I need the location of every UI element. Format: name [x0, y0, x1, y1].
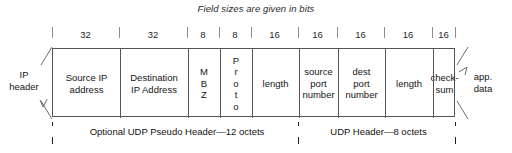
bit-size-tick	[337, 27, 338, 38]
field-cell-proto: Proto	[220, 49, 252, 118]
field-label-line: r	[234, 66, 237, 77]
bit-size-label-source-ip-address: 32	[52, 29, 119, 40]
field-label-line: port	[353, 78, 369, 89]
field-divider	[220, 49, 221, 118]
bit-size-label-mbz: 8	[187, 29, 219, 40]
field-cell-dest-port-number: destportnumber	[338, 49, 385, 118]
field-label-line: Destination	[130, 72, 178, 83]
field-label-proto: Proto	[233, 55, 239, 113]
field-label-mbz: MBZ	[200, 66, 208, 101]
bit-size-tick	[119, 27, 120, 38]
field-label-line: o	[233, 78, 238, 89]
field-label-line: address	[70, 84, 104, 95]
bit-size-label-source-port-number: 16	[298, 29, 337, 40]
field-divider	[120, 49, 121, 118]
field-divider	[299, 49, 300, 118]
bit-size-tick	[432, 27, 433, 38]
bit-size-tick	[219, 27, 220, 38]
field-cell-destination-ip-address: DestinationIP Address	[120, 49, 188, 118]
bit-size-label-checksum: 16	[432, 29, 455, 40]
bit-size-label-destination-ip-address: 32	[119, 29, 187, 40]
bit-size-label-udp-length: 16	[384, 29, 432, 40]
field-label-line: length	[263, 78, 289, 89]
span-label-pseudo-header-span: Optional UDP Pseudo Header—12 octets	[52, 126, 302, 137]
field-divider	[433, 49, 434, 118]
udp-pseudo-header-diagram: Field sizes are given in bits 3232881616…	[0, 0, 512, 153]
field-cell-pseudo-length: length	[252, 49, 299, 118]
field-label-line: P	[233, 55, 239, 66]
field-label-source-port-number: sourceportnumber	[302, 66, 334, 101]
field-label-line: number	[345, 89, 377, 100]
bit-size-tick	[187, 27, 188, 38]
field-label-line: Z	[201, 89, 207, 100]
ip-header-label-line1: IP	[20, 69, 29, 80]
field-label-line: M	[200, 66, 208, 77]
field-label-line: IP Address	[131, 84, 177, 95]
field-label-line: port	[310, 78, 326, 89]
diagram-caption: Field sizes are given in bits	[0, 3, 512, 14]
field-label-line: length	[396, 78, 422, 89]
field-label-dest-port-number: destportnumber	[345, 66, 377, 101]
app-data-label-line1: app.	[474, 71, 493, 82]
field-label-line: B	[201, 78, 207, 89]
field-box: Source IPaddressDestinationIP AddressMBZ…	[52, 48, 455, 117]
ip-header-label-line2: header	[9, 81, 39, 92]
span-annotations: Optional UDP Pseudo Header—12 octetsUDP …	[0, 117, 512, 147]
app-data-label-line2: data	[474, 83, 493, 94]
field-divider	[338, 49, 339, 118]
bit-size-label-proto: 8	[219, 29, 251, 40]
bit-size-tick	[298, 27, 299, 38]
app-data-label: app. data	[461, 71, 505, 94]
field-cell-mbz: MBZ	[188, 49, 220, 118]
field-label-line: sum	[436, 84, 454, 95]
field-cell-source-ip-address: Source IPaddress	[53, 49, 120, 118]
field-label-line: number	[302, 89, 334, 100]
field-label-destination-ip-address: DestinationIP Address	[130, 72, 178, 95]
bit-size-label-pseudo-length: 16	[251, 29, 298, 40]
span-label-udp-header-span: UDP Header—8 octets	[298, 126, 459, 137]
field-cell-udp-length: length	[385, 49, 433, 118]
field-label-line: dest	[353, 66, 371, 77]
field-divider	[385, 49, 386, 118]
field-cell-source-port-number: sourceportnumber	[299, 49, 338, 118]
field-label-source-ip-address: Source IPaddress	[66, 72, 108, 95]
bit-size-tick	[455, 27, 456, 38]
field-label-line: Source IP	[66, 72, 108, 83]
bit-size-label-dest-port-number: 16	[337, 29, 384, 40]
field-label-udp-length: length	[396, 78, 422, 90]
field-divider	[188, 49, 189, 118]
field-label-line: t	[235, 89, 238, 100]
field-label-pseudo-length: length	[263, 78, 289, 90]
field-label-line: source	[304, 66, 333, 77]
bit-size-tick	[251, 27, 252, 38]
bit-size-tick	[384, 27, 385, 38]
field-divider	[252, 49, 253, 118]
field-label-line: o	[233, 101, 238, 112]
bit-size-tick	[52, 27, 53, 38]
ip-header-label: IP header	[2, 69, 46, 92]
bit-size-row: 3232881616161616	[0, 26, 512, 46]
